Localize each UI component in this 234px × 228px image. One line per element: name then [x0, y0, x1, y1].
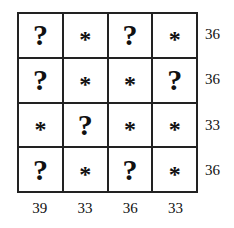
grid-cell: *: [63, 13, 108, 58]
row-sums: 36363336: [205, 12, 231, 193]
column-sum: 39: [17, 200, 62, 222]
asterisk-symbol: *: [169, 117, 181, 141]
asterisk-symbol: *: [34, 117, 46, 141]
grid-cell: ?: [108, 147, 153, 192]
question-mark-symbol: ?: [167, 65, 182, 95]
grid-cell: ?: [152, 58, 197, 103]
grid-cell: *: [63, 58, 108, 103]
grid-cell: *: [152, 13, 197, 58]
grid-cell: *: [152, 147, 197, 192]
grid-cell: ?: [108, 13, 153, 58]
asterisk-symbol: *: [79, 162, 91, 186]
asterisk-symbol: *: [169, 162, 181, 186]
question-mark-symbol: ?: [33, 155, 48, 185]
column-sum: 33: [62, 200, 107, 222]
column-sum: 33: [153, 200, 198, 222]
question-mark-symbol: ?: [33, 20, 48, 50]
row-sum: 36: [205, 12, 231, 57]
asterisk-symbol: *: [79, 27, 91, 51]
grid-cell: *: [108, 58, 153, 103]
grid-cell: ?: [63, 103, 108, 148]
grid-cell: *: [152, 103, 197, 148]
grid-cell: ?: [18, 58, 63, 103]
question-mark-symbol: ?: [122, 20, 137, 50]
row-sum: 36: [205, 57, 231, 102]
row-sum: 36: [205, 148, 231, 193]
asterisk-symbol: *: [124, 72, 136, 96]
question-mark-symbol: ?: [78, 110, 93, 140]
grid-cell: *: [108, 103, 153, 148]
grid-cell: *: [18, 103, 63, 148]
grid-cell: ?: [18, 13, 63, 58]
question-mark-symbol: ?: [33, 65, 48, 95]
column-sum: 36: [108, 200, 153, 222]
asterisk-symbol: *: [169, 27, 181, 51]
grid-cell: *: [63, 147, 108, 192]
column-sums: 39333633: [17, 200, 198, 222]
asterisk-symbol: *: [79, 72, 91, 96]
grid-cell: ?: [18, 147, 63, 192]
question-mark-symbol: ?: [122, 155, 137, 185]
row-sum: 33: [205, 103, 231, 148]
asterisk-symbol: *: [124, 117, 136, 141]
puzzle-grid: ?*?*?**?*?**?*?*: [17, 12, 198, 193]
